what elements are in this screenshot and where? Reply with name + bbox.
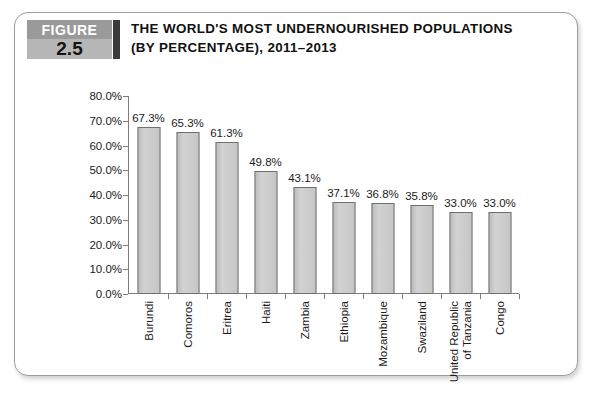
x-axis-category-label: United Republicof Tanzania — [448, 301, 474, 382]
bar-value-label: 37.1% — [327, 187, 360, 200]
bar[interactable] — [371, 203, 394, 294]
category-label-slot: United Republicof Tanzania — [441, 301, 480, 404]
bar[interactable] — [449, 212, 472, 294]
bar[interactable] — [332, 202, 355, 294]
bar-group: 67.3% — [129, 96, 168, 294]
y-axis-tick-label: 50.0% — [59, 164, 122, 176]
x-axis-tick-mark — [519, 294, 520, 299]
bar-value-label: 49.8% — [249, 156, 282, 169]
x-axis-tick-mark — [285, 294, 286, 299]
x-axis-tick-mark — [324, 294, 325, 299]
category-label-slot: Comoros — [168, 301, 207, 404]
bar-value-label: 35.8% — [405, 190, 438, 203]
bar-group: 49.8% — [246, 96, 285, 294]
y-axis-tick-mark — [123, 294, 128, 295]
bar[interactable] — [137, 127, 160, 294]
category-label-line: Ethiopia — [337, 301, 349, 343]
category-label-slot: Swaziland — [402, 301, 441, 404]
category-label-slot: Haiti — [246, 301, 285, 404]
badge-word-figure: FIGURE — [27, 21, 112, 39]
x-axis-category-label: Zambia — [298, 301, 311, 339]
x-axis-category-label: Ethiopia — [337, 301, 350, 343]
figure-title: THE WORLD'S MOST UNDERNOURISHED POPULATI… — [131, 19, 571, 57]
x-axis-category-labels: BurundiComorosEritreaHaitiZambiaEthiopia… — [129, 301, 519, 404]
bar-value-label: 33.0% — [444, 197, 477, 210]
category-label-line: United Republic — [448, 301, 460, 382]
x-axis-tick-mark — [402, 294, 403, 299]
y-axis-tick-label: 70.0% — [59, 115, 122, 127]
x-axis-tick-mark — [480, 294, 481, 299]
bar-group: 36.8% — [363, 96, 402, 294]
badge-accent-bar — [113, 20, 120, 59]
category-label-line: Swaziland — [415, 301, 427, 353]
bar-value-label: 36.8% — [366, 188, 399, 201]
plot-area: 67.3%65.3%61.3%49.8%43.1%37.1%36.8%35.8%… — [129, 96, 519, 294]
category-label-line: Mozambique — [376, 301, 388, 367]
bar[interactable] — [488, 212, 511, 294]
figure-title-line-2: (BY PERCENTAGE), 2011–2013 — [131, 38, 571, 57]
category-label-slot: Eritrea — [207, 301, 246, 404]
bar[interactable] — [176, 132, 199, 294]
category-label-line: Haiti — [259, 301, 271, 324]
bar[interactable] — [215, 142, 238, 294]
bar-value-label: 67.3% — [132, 112, 165, 125]
x-axis-tick-mark — [441, 294, 442, 299]
category-label-slot: Congo — [480, 301, 519, 404]
category-label-slot: Ethiopia — [324, 301, 363, 404]
category-label-line: Comoros — [181, 301, 193, 348]
y-axis-tick-label: 80.0% — [59, 90, 122, 102]
screenshot-root: FIGURE 2.5 THE WORLD'S MOST UNDERNOURISH… — [0, 0, 595, 404]
y-axis-tick-label: 20.0% — [59, 239, 122, 251]
category-label-slot: Burundi — [129, 301, 168, 404]
x-axis-category-label: Congo — [493, 301, 506, 335]
bar[interactable] — [254, 171, 277, 294]
bar[interactable] — [410, 205, 433, 294]
x-axis-tick-mark — [168, 294, 169, 299]
figure-number-badge: FIGURE 2.5 — [27, 20, 120, 59]
bar-group: 43.1% — [285, 96, 324, 294]
category-label-line: Eritrea — [220, 301, 232, 335]
bar-group: 37.1% — [324, 96, 363, 294]
x-axis-category-label: Comoros — [181, 301, 194, 348]
x-axis-tick-mark — [246, 294, 247, 299]
figure-header: FIGURE 2.5 THE WORLD'S MOST UNDERNOURISH… — [15, 13, 577, 71]
bar-group: 35.8% — [402, 96, 441, 294]
bar-group: 61.3% — [207, 96, 246, 294]
x-axis-tick-mark — [363, 294, 364, 299]
bar[interactable] — [293, 187, 316, 294]
x-axis-category-label: Haiti — [259, 301, 272, 324]
x-axis-category-label: Eritrea — [220, 301, 233, 335]
y-axis-labels: 80.0%70.0%60.0%50.0%40.0%30.0%20.0%10.0%… — [59, 71, 122, 377]
category-label-line: Zambia — [298, 301, 310, 339]
bar-value-label: 61.3% — [210, 127, 243, 140]
category-label-slot: Mozambique — [363, 301, 402, 404]
y-axis-tick-label: 30.0% — [59, 214, 122, 226]
x-axis-category-label: Swaziland — [415, 301, 428, 353]
y-axis-tick-label: 40.0% — [59, 189, 122, 201]
badge-figure-number: 2.5 — [27, 38, 112, 59]
bar-value-label: 65.3% — [171, 117, 204, 130]
x-axis-tick-mark — [207, 294, 208, 299]
category-label-line: Congo — [493, 301, 505, 335]
bar-group: 33.0% — [441, 96, 480, 294]
category-label-slot: Zambia — [285, 301, 324, 404]
bar-group: 65.3% — [168, 96, 207, 294]
bar-chart: 80.0%70.0%60.0%50.0%40.0%30.0%20.0%10.0%… — [15, 71, 579, 377]
y-axis-tick-label: 60.0% — [59, 140, 122, 152]
bar-value-label: 33.0% — [483, 197, 516, 210]
category-label-line: of Tanzania — [461, 301, 474, 382]
figure-title-line-1: THE WORLD'S MOST UNDERNOURISHED POPULATI… — [131, 19, 571, 38]
x-axis-category-label: Burundi — [142, 301, 155, 341]
category-label-line: Burundi — [142, 301, 154, 341]
bar-group: 33.0% — [480, 96, 519, 294]
bar-value-label: 43.1% — [288, 172, 321, 185]
y-axis-tick-label: 10.0% — [59, 263, 122, 275]
x-axis-category-label: Mozambique — [376, 301, 389, 367]
y-axis-tick-label: 0.0% — [59, 288, 122, 300]
figure-card: FIGURE 2.5 THE WORLD'S MOST UNDERNOURISH… — [14, 12, 578, 376]
